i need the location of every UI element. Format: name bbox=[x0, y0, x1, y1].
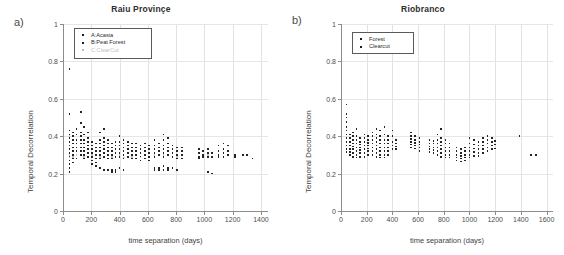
data-point bbox=[392, 130, 394, 132]
data-point bbox=[163, 156, 165, 158]
data-point bbox=[359, 156, 361, 158]
data-point bbox=[140, 145, 142, 147]
data-point bbox=[478, 141, 480, 143]
data-point bbox=[87, 141, 89, 143]
data-point bbox=[91, 160, 93, 162]
data-point bbox=[376, 145, 378, 147]
data-point bbox=[395, 148, 397, 150]
data-point bbox=[491, 141, 493, 143]
data-point bbox=[429, 146, 431, 148]
x-axis-tick bbox=[444, 212, 445, 215]
data-point bbox=[419, 141, 421, 143]
data-point bbox=[352, 146, 354, 148]
data-point bbox=[83, 126, 85, 128]
data-point bbox=[246, 154, 248, 156]
data-point bbox=[429, 143, 431, 145]
data-point bbox=[456, 154, 458, 156]
data-point bbox=[111, 147, 113, 149]
y-axis-tick bbox=[338, 99, 341, 100]
data-point bbox=[469, 137, 471, 139]
data-point bbox=[359, 149, 361, 151]
data-point bbox=[119, 156, 121, 158]
data-point bbox=[387, 150, 389, 152]
y-axis-tick bbox=[338, 136, 341, 137]
data-point bbox=[356, 128, 358, 130]
data-point bbox=[167, 147, 169, 149]
legend-label: Clearcut bbox=[369, 43, 390, 50]
gridline-vertical bbox=[469, 24, 470, 211]
x-axis-tick bbox=[91, 212, 92, 215]
data-point bbox=[346, 137, 348, 139]
data-point bbox=[346, 117, 348, 119]
data-point bbox=[167, 143, 169, 145]
data-point bbox=[95, 150, 97, 152]
data-point bbox=[445, 139, 447, 141]
data-point bbox=[491, 148, 493, 150]
data-point bbox=[154, 148, 156, 150]
data-point bbox=[359, 141, 361, 143]
data-point bbox=[372, 135, 374, 137]
data-point bbox=[218, 145, 220, 147]
data-point bbox=[379, 143, 381, 145]
data-point bbox=[437, 139, 439, 141]
data-point bbox=[482, 152, 484, 154]
gridline-vertical bbox=[444, 24, 445, 211]
data-point bbox=[346, 148, 348, 150]
data-point bbox=[359, 147, 361, 149]
data-point bbox=[395, 143, 397, 145]
data-point bbox=[376, 134, 378, 136]
data-point bbox=[387, 147, 389, 149]
data-point bbox=[202, 156, 204, 158]
data-point bbox=[356, 143, 358, 145]
data-point bbox=[429, 148, 431, 150]
data-point bbox=[445, 154, 447, 156]
data-point bbox=[367, 148, 369, 150]
data-point bbox=[352, 143, 354, 145]
data-point bbox=[140, 157, 142, 159]
data-point bbox=[158, 169, 160, 171]
data-point bbox=[437, 154, 439, 156]
data-point bbox=[392, 145, 394, 147]
data-point bbox=[440, 152, 442, 154]
data-point bbox=[123, 169, 125, 171]
data-point bbox=[127, 152, 129, 154]
panel-a: a) Raiu Provinçe Temporal Decorrelation … bbox=[0, 0, 282, 255]
data-point bbox=[154, 169, 156, 171]
data-point bbox=[111, 150, 113, 152]
data-point bbox=[76, 158, 78, 160]
data-point bbox=[494, 148, 496, 150]
data-point bbox=[123, 154, 125, 156]
data-point bbox=[123, 157, 125, 159]
data-point bbox=[349, 137, 351, 139]
data-point bbox=[176, 158, 178, 160]
x-axis-tick-label: 600 bbox=[142, 216, 154, 223]
data-point bbox=[140, 148, 142, 150]
data-point bbox=[469, 154, 471, 156]
data-point bbox=[91, 163, 93, 165]
x-axis-tick bbox=[148, 212, 149, 215]
panel-b: b) Riobranco Temporal Decorrelation time… bbox=[282, 0, 564, 255]
data-point bbox=[487, 135, 489, 137]
data-point bbox=[176, 147, 178, 149]
data-point bbox=[414, 148, 416, 150]
data-point bbox=[107, 147, 109, 149]
data-point bbox=[372, 132, 374, 134]
data-point bbox=[69, 141, 71, 143]
data-point bbox=[367, 142, 369, 144]
data-point bbox=[478, 155, 480, 157]
data-point bbox=[83, 143, 85, 145]
legend-label: C:ClearCut bbox=[91, 47, 119, 54]
data-point bbox=[76, 154, 78, 156]
data-point bbox=[111, 156, 113, 158]
data-point bbox=[460, 148, 462, 150]
data-point bbox=[163, 165, 165, 167]
data-point bbox=[107, 143, 109, 145]
data-point bbox=[440, 145, 442, 147]
data-point bbox=[482, 145, 484, 147]
x-axis-tick-label: 1000 bbox=[197, 216, 213, 223]
data-point bbox=[440, 137, 442, 139]
y-axis-tick bbox=[60, 99, 63, 100]
panel-b-ylabel: Temporal Decorrelation bbox=[304, 110, 313, 193]
panel-a-xlabel: time separation (days) bbox=[63, 236, 268, 245]
data-point bbox=[346, 104, 348, 106]
